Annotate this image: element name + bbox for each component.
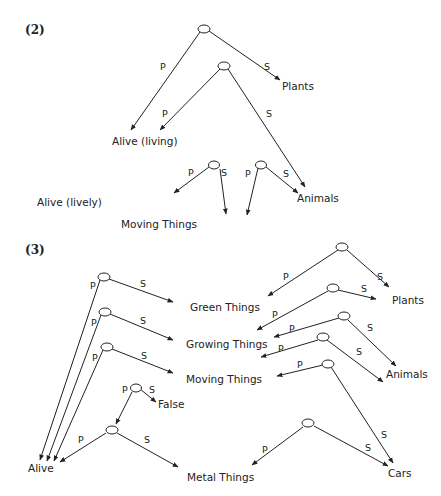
svg-text:S: S bbox=[361, 283, 367, 294]
svg-text:P: P bbox=[91, 317, 97, 328]
node-animals: Animals bbox=[297, 192, 339, 204]
svg-text:S: S bbox=[365, 442, 371, 453]
svg-text:S: S bbox=[144, 434, 150, 445]
svg-text:S: S bbox=[367, 322, 373, 333]
node bbox=[106, 426, 118, 434]
section-label-2: (2) bbox=[25, 23, 45, 37]
svg-text:S: S bbox=[283, 168, 289, 179]
node bbox=[336, 243, 348, 251]
svg-text:P: P bbox=[78, 434, 84, 445]
svg-text:S: S bbox=[140, 315, 146, 326]
svg-text:P: P bbox=[289, 323, 295, 334]
node-growing-things: Growing Things bbox=[186, 338, 268, 350]
svg-text:P: P bbox=[245, 168, 251, 179]
node bbox=[101, 343, 113, 351]
node bbox=[99, 308, 111, 316]
node bbox=[322, 360, 334, 368]
semantic-network-diagram: (2) P S P S Plants Alive (living) P S P … bbox=[0, 0, 441, 496]
svg-text:P: P bbox=[160, 61, 166, 72]
svg-text:P: P bbox=[92, 352, 98, 363]
node bbox=[338, 312, 350, 320]
node-animals: Animals bbox=[386, 368, 428, 380]
svg-text:S: S bbox=[266, 108, 272, 119]
svg-text:P: P bbox=[188, 167, 194, 178]
node bbox=[256, 161, 267, 169]
svg-text:S: S bbox=[377, 271, 383, 282]
diagram-2: P S P S Plants Alive (living) P S P S Al… bbox=[37, 25, 339, 230]
svg-text:P: P bbox=[278, 343, 284, 354]
node-metal-things: Metal Things bbox=[187, 471, 254, 483]
node bbox=[302, 419, 314, 427]
svg-text:P: P bbox=[283, 271, 289, 282]
svg-text:P: P bbox=[297, 359, 303, 370]
node bbox=[218, 62, 230, 70]
diagram-3: P S P S P S Green Things Growing Things … bbox=[28, 243, 428, 483]
node-alive: Alive bbox=[28, 462, 54, 474]
node-green-things: Green Things bbox=[190, 301, 260, 313]
node bbox=[327, 284, 339, 292]
node bbox=[198, 25, 210, 33]
svg-text:P: P bbox=[122, 384, 128, 395]
svg-text:P: P bbox=[262, 444, 268, 455]
svg-text:P: P bbox=[162, 108, 168, 119]
node bbox=[209, 161, 220, 169]
node-moving-things: Moving Things bbox=[186, 373, 262, 385]
node-alive-living: Alive (living) bbox=[112, 135, 178, 147]
node bbox=[131, 384, 142, 392]
node bbox=[317, 333, 329, 341]
svg-text:P: P bbox=[272, 309, 278, 320]
node-moving-things: Moving Things bbox=[121, 218, 197, 230]
node-alive-lively: Alive (lively) bbox=[37, 196, 102, 208]
svg-text:P: P bbox=[90, 280, 96, 291]
svg-text:S: S bbox=[381, 429, 387, 440]
node-plants: Plants bbox=[282, 80, 314, 92]
section-label-3: (3) bbox=[25, 243, 45, 257]
node-false: False bbox=[158, 398, 184, 410]
node-cars: Cars bbox=[388, 467, 412, 479]
svg-text:S: S bbox=[149, 384, 155, 395]
svg-text:S: S bbox=[140, 278, 146, 289]
node bbox=[98, 273, 110, 281]
svg-text:S: S bbox=[356, 346, 362, 357]
svg-text:S: S bbox=[264, 61, 270, 72]
node-plants: Plants bbox=[392, 294, 424, 306]
svg-text:S: S bbox=[141, 350, 147, 361]
svg-text:S: S bbox=[221, 167, 227, 178]
